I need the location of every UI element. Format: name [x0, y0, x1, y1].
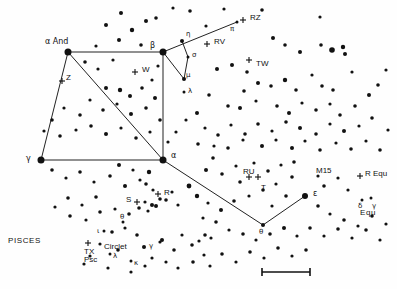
star-label: π: [230, 26, 234, 33]
field-star: [78, 170, 82, 174]
field-star: [331, 88, 335, 92]
field-star: [314, 108, 318, 112]
star-label: α: [171, 152, 176, 160]
field-star: [158, 240, 161, 243]
field-star: [283, 43, 287, 47]
field-star: [260, 144, 264, 148]
field-star: [292, 160, 296, 164]
field-star: [262, 256, 265, 259]
star-label: λ: [188, 88, 192, 95]
labeled-star: [183, 91, 186, 94]
labeled-star: [142, 245, 146, 249]
field-star: [220, 252, 224, 256]
field-star: [176, 203, 179, 206]
field-star: [290, 175, 294, 179]
labeled-star: [187, 56, 190, 59]
scale-bar: [262, 268, 310, 276]
field-star: [247, 194, 250, 197]
labeled-star: [180, 39, 184, 43]
field-star: [88, 98, 91, 101]
field-star: [206, 201, 209, 204]
field-star: [229, 123, 232, 126]
variable-star-label: W: [142, 66, 150, 74]
variable-star-marker: [132, 69, 138, 75]
field-star: [290, 254, 293, 257]
field-star: [208, 264, 211, 267]
field-star: [68, 214, 72, 218]
field-star: [270, 204, 273, 207]
field-star: [83, 60, 87, 64]
field-star: [384, 68, 387, 71]
labeled-star: [236, 21, 239, 24]
field-star: [118, 88, 122, 92]
field-star: [300, 101, 303, 104]
field-star: [131, 168, 134, 171]
variable-star-marker: [357, 173, 363, 179]
field-star: [50, 168, 54, 172]
field-star: [230, 63, 234, 67]
field-star: [166, 140, 169, 143]
field-star: [204, 168, 208, 172]
field-star: [146, 209, 149, 212]
field-star: [318, 148, 322, 152]
field-star: [172, 248, 176, 252]
labeled-stars-group: [38, 21, 373, 263]
field-star: [144, 182, 148, 186]
field-star: [104, 23, 108, 27]
field-star: [204, 24, 207, 27]
field-star: [322, 184, 326, 188]
field-star: [222, 7, 225, 10]
field-star: [139, 43, 143, 47]
field-star: [346, 188, 349, 191]
field-star: [234, 260, 237, 263]
field-star: [134, 136, 138, 140]
field-star: [143, 200, 146, 203]
field-star: [256, 81, 260, 85]
field-star: [316, 204, 320, 208]
field-star: [58, 134, 62, 138]
field-star: [53, 205, 56, 208]
labeled-star: [160, 157, 167, 164]
field-star: [150, 203, 154, 207]
variable-star-label: Z: [66, 74, 71, 82]
field-star: [329, 47, 335, 53]
field-star: [279, 163, 282, 166]
field-star: [336, 176, 339, 179]
star-label: θ: [120, 214, 124, 221]
star-chart-canvas: α AndβγαεθησμλπγλκθιδγRZRVTWWZRSRUTR Equ…: [0, 0, 397, 289]
field-star: [318, 15, 321, 18]
variable-star-marker: [240, 17, 246, 23]
field-star: [314, 132, 318, 136]
field-star: [150, 78, 153, 81]
variable-star-label: R Equ: [365, 170, 387, 178]
field-star: [350, 236, 353, 239]
labeled-star: [103, 230, 106, 233]
field-star: [151, 188, 154, 191]
field-star: [284, 194, 288, 198]
field-star: [164, 198, 168, 202]
field-star: [50, 118, 54, 122]
field-star: [154, 204, 158, 208]
field-star: [357, 124, 360, 127]
variable-star-marker: [246, 57, 252, 63]
field-star: [243, 132, 247, 136]
labeled-star: [302, 193, 308, 199]
field-star: [227, 228, 230, 231]
variable-star-label: TX Psc: [84, 248, 97, 265]
variable-star-marker: [255, 174, 261, 180]
star-label: θ: [259, 229, 263, 236]
field-star: [195, 111, 199, 115]
field-star: [140, 86, 144, 90]
constellation-line-theta-to-epsilon: [263, 196, 305, 225]
field-star: [295, 234, 298, 237]
field-star: [319, 43, 323, 47]
field-star: [310, 73, 313, 76]
star-label: κ: [134, 260, 138, 267]
field-star: [271, 36, 275, 40]
field-star: [343, 52, 347, 56]
field-star: [42, 129, 45, 132]
star-label: γ: [149, 243, 153, 250]
labeled-star: [130, 260, 133, 263]
field-star: [94, 44, 97, 47]
field-star: [266, 169, 270, 173]
